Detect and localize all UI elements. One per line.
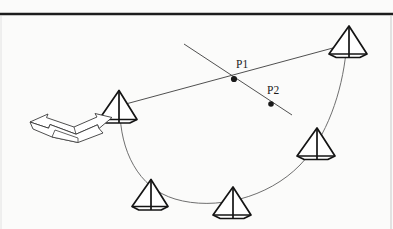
point-label-p1: P1 bbox=[236, 58, 248, 70]
point-p2 bbox=[268, 101, 274, 107]
figure-svg: P1P2 bbox=[0, 0, 393, 229]
diagram-canvas: P1P2 bbox=[0, 0, 393, 229]
point-p1 bbox=[231, 76, 237, 82]
point-label-p2: P2 bbox=[267, 84, 279, 96]
background-rect bbox=[0, 0, 393, 229]
